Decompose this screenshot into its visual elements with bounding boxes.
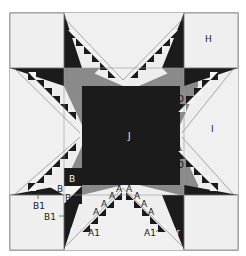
label-b1-left: B1 xyxy=(33,201,45,211)
corner-square-bottom-right xyxy=(184,195,238,250)
label-c: C xyxy=(70,226,76,236)
feathered-star-block: H I J D D B B B B1 B1 C Cr A1 A1 A A A A… xyxy=(0,0,246,256)
label-d-bottom: D xyxy=(177,160,184,170)
label-j: J xyxy=(127,131,131,141)
quilt-diagram: H I J D D B B B B1 B1 C Cr A1 A1 A A A A… xyxy=(0,0,246,256)
label-i: I xyxy=(211,124,214,134)
label-a: A xyxy=(109,191,116,201)
label-a: A xyxy=(93,207,100,217)
corner-square-top-left xyxy=(10,13,64,68)
label-a1-left: A1 xyxy=(88,228,100,238)
label-b1-lower: B1 xyxy=(44,212,56,222)
label-a: A xyxy=(116,184,123,194)
label-a1-right: A1 xyxy=(144,228,156,238)
label-a: A xyxy=(148,207,155,217)
piece-d-top-left xyxy=(64,68,82,86)
label-b-inner: B xyxy=(57,184,63,194)
label-d-top: D xyxy=(177,94,184,104)
label-a: A xyxy=(101,199,108,209)
label-a: A xyxy=(134,191,141,201)
label-a: A xyxy=(126,184,133,194)
label-cr: Cr xyxy=(170,227,180,237)
label-b-lower: B xyxy=(65,193,71,203)
center-square-j xyxy=(82,86,180,185)
label-a: A xyxy=(141,199,148,209)
label-h: H xyxy=(205,34,212,44)
label-b-square: B xyxy=(69,174,75,184)
